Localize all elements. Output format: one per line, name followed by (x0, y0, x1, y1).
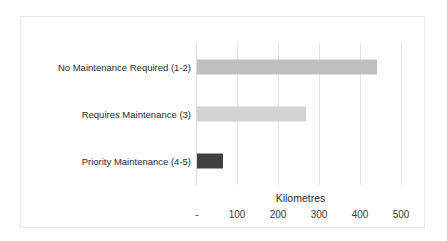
bar-row: Priority Maintenance (4-5) (196, 138, 405, 185)
x-tick-300: 300 (311, 209, 328, 220)
category-label-requires-maintenance: Requires Maintenance (3) (82, 108, 191, 119)
bar-requires-maintenance[interactable] (197, 106, 306, 121)
category-label-no-maintenance-required: No Maintenance Required (1-2) (58, 61, 191, 72)
bars-layer: No Maintenance Required (1-2) Requires M… (196, 43, 405, 185)
x-axis-tick-labels: - 100 200 300 400 500 (196, 209, 405, 223)
x-tick-0: - (195, 209, 198, 220)
x-tick-500: 500 (393, 209, 410, 220)
plot-area: No Maintenance Required (1-2) Requires M… (196, 43, 405, 185)
x-tick-100: 100 (229, 209, 246, 220)
bar-row: No Maintenance Required (1-2) (196, 43, 405, 90)
category-label-priority-maintenance: Priority Maintenance (4-5) (82, 156, 191, 167)
x-tick-200: 200 (270, 209, 287, 220)
bar-row: Requires Maintenance (3) (196, 90, 405, 137)
x-tick-400: 400 (352, 209, 369, 220)
x-axis-title: Kilometres (196, 192, 405, 204)
bar-no-maintenance-required[interactable] (197, 59, 377, 74)
chart-container: No Maintenance Required (1-2) Requires M… (20, 16, 425, 228)
bar-priority-maintenance[interactable] (197, 154, 223, 169)
